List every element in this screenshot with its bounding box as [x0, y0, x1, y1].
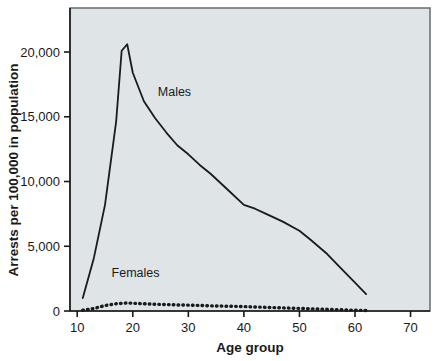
series-label-females: Females — [112, 266, 160, 280]
y-axis-title: Arrests per 100,000 in population — [6, 63, 21, 276]
x-tick-label: 20 — [126, 320, 140, 335]
x-tick-label: 50 — [292, 320, 306, 335]
y-tick-label: 10,000 — [20, 174, 60, 189]
x-tick-label: 40 — [237, 320, 251, 335]
y-tick-label: 5,000 — [27, 239, 60, 254]
chart-figure: 05,00010,00015,00020,000 10203040506070 … — [0, 0, 443, 361]
x-tick-label: 30 — [181, 320, 195, 335]
x-axis-title: Age group — [216, 340, 284, 355]
x-tick-label: 10 — [70, 320, 84, 335]
x-tick-label: 60 — [348, 320, 362, 335]
series-label-males: Males — [158, 85, 191, 99]
arrests-by-age-line-chart: 05,00010,00015,00020,000 10203040506070 … — [0, 0, 443, 361]
y-tick-label: 15,000 — [20, 109, 60, 124]
y-tick-label: 0 — [53, 304, 60, 319]
y-tick-label: 20,000 — [20, 45, 60, 60]
x-tick-label: 70 — [403, 320, 417, 335]
